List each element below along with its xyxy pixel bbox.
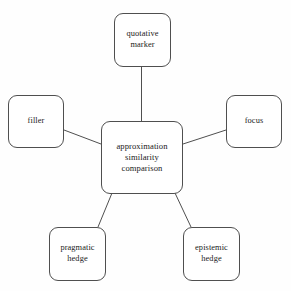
- edge-pragmatic-center: [98, 193, 112, 227]
- node-pragmatic-hedge-label: pragmatic hedge: [57, 243, 97, 265]
- edge-epistemic-center: [175, 193, 191, 227]
- node-epistemic-hedge[interactable]: epistemic hedge: [183, 227, 240, 281]
- node-pragmatic-hedge[interactable]: pragmatic hedge: [49, 227, 106, 281]
- node-filler-label: filler: [25, 116, 48, 127]
- node-filler[interactable]: filler: [8, 95, 64, 148]
- edge-filler-center: [64, 130, 101, 144]
- node-quotative-marker[interactable]: quotative marker: [114, 13, 171, 67]
- node-focus-label: focus: [242, 116, 267, 127]
- edge-focus-center: [183, 130, 226, 144]
- node-epistemic-hedge-label: epistemic hedge: [192, 243, 231, 265]
- node-approximation-similarity-comparison[interactable]: approximation similarity comparison: [101, 121, 183, 194]
- concept-map-diagram: approximation similarity comparison quot…: [0, 0, 291, 291]
- node-quotative-marker-label: quotative marker: [124, 29, 162, 51]
- node-focus[interactable]: focus: [226, 95, 282, 148]
- node-center-label: approximation similarity comparison: [113, 141, 170, 174]
